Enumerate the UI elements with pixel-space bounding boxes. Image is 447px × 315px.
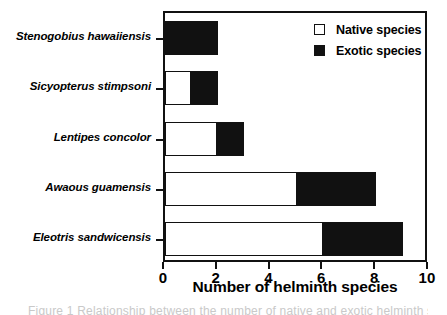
bar-segment-exotic <box>190 71 218 105</box>
bar-row <box>165 172 425 206</box>
stacked-bar <box>165 172 376 206</box>
x-axis-tick <box>268 262 270 269</box>
y-axis-tick <box>156 189 165 191</box>
y-axis-category-label: Awaous guamensis <box>1 181 151 193</box>
legend-swatch-native-icon <box>314 24 325 35</box>
figure-caption: Figure 1 Relationship between the number… <box>28 304 428 315</box>
legend: Native species Exotic species <box>314 19 426 61</box>
bar-row <box>165 222 425 256</box>
x-axis-tick <box>373 262 375 269</box>
y-axis-tick <box>156 139 165 141</box>
bar-segment-native <box>165 172 297 206</box>
stacked-bar <box>165 222 403 256</box>
stacked-bar <box>165 71 218 105</box>
legend-item-exotic: Exotic species <box>314 40 426 61</box>
legend-label-native: Native species <box>336 23 421 37</box>
plot-area: Native species Exotic species <box>163 11 427 262</box>
legend-item-native: Native species <box>314 19 426 40</box>
x-axis-tick <box>320 262 322 269</box>
x-axis-tick <box>162 262 164 269</box>
legend-swatch-exotic-icon <box>314 45 325 56</box>
bar-segment-native <box>165 122 218 156</box>
bar-row <box>165 122 425 156</box>
x-axis-title: Number of helminth species <box>163 278 427 296</box>
legend-label-exotic: Exotic species <box>336 44 421 58</box>
bar-row <box>165 71 425 105</box>
bar-segment-exotic <box>216 122 244 156</box>
bar-segment-exotic <box>322 222 403 256</box>
bar-segment-native <box>165 71 191 105</box>
y-axis-tick <box>156 88 165 90</box>
y-axis-tick <box>156 38 165 40</box>
y-axis-category-label: Stenogobius hawaiiensis <box>1 30 151 42</box>
bar-segment-exotic <box>165 21 218 55</box>
stacked-bar <box>165 21 218 55</box>
bar-segment-exotic <box>296 172 377 206</box>
stacked-bar <box>165 122 244 156</box>
y-axis-category-label: Lentipes concolor <box>1 131 151 143</box>
y-axis-category-label: Sicyopterus stimpsoni <box>1 80 151 92</box>
y-axis-category-label: Eleotris sandwicensis <box>1 231 151 243</box>
x-axis-tick <box>426 262 428 269</box>
helminth-species-bar-chart: Native species Exotic species Stenogobiu… <box>0 0 447 315</box>
x-axis-tick <box>215 262 217 269</box>
y-axis-tick <box>156 239 165 241</box>
bar-segment-native <box>165 222 323 256</box>
